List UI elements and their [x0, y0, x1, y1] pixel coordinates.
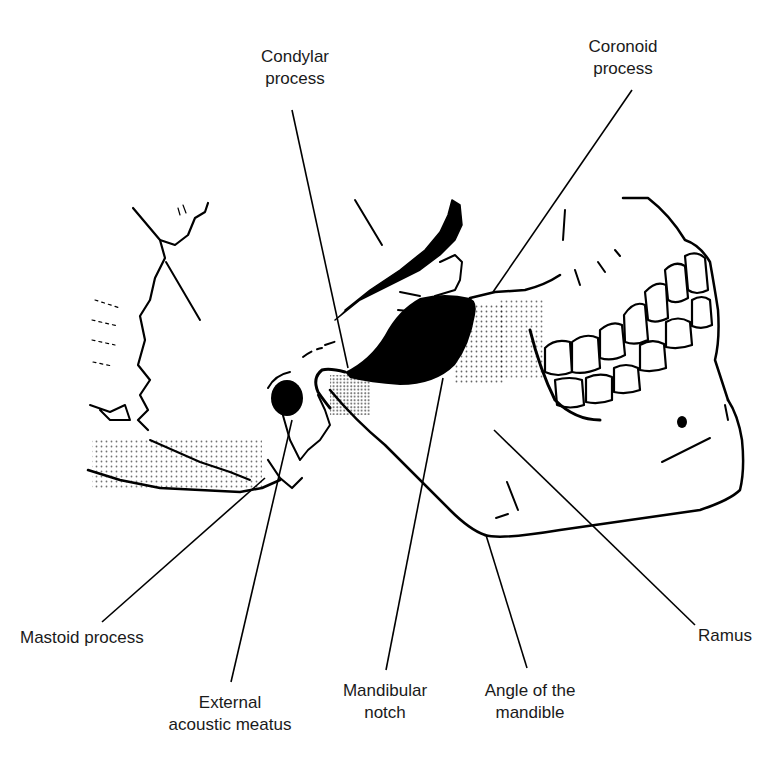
leader-mastoid-process: [102, 478, 265, 622]
label-line: Mandibular: [330, 680, 440, 702]
leader-ramus: [494, 430, 695, 625]
leader-coronoid-process: [493, 90, 632, 292]
label-line: process: [243, 68, 347, 90]
label-line: mandible: [470, 702, 590, 724]
label-line: notch: [330, 702, 440, 724]
leader-mandibular-notch: [386, 378, 443, 670]
label-mandibular-notch: Mandibular notch: [330, 680, 440, 724]
label-line: Mastoid process: [20, 627, 180, 649]
label-line: External: [150, 692, 310, 714]
skull-cranium: [88, 200, 505, 492]
label-line: acoustic meatus: [150, 714, 310, 736]
label-line: Condylar: [243, 46, 347, 68]
leader-condylar-process: [292, 110, 348, 368]
label-line: Coronoid: [573, 36, 673, 58]
label-ramus: Ramus: [690, 625, 760, 647]
label-angle-of-the-mandible: Angle of the mandible: [470, 680, 590, 724]
label-line: process: [573, 58, 673, 80]
label-line: Angle of the: [470, 680, 590, 702]
label-external-acoustic-meatus: External acoustic meatus: [150, 692, 310, 736]
leader-angle-of-the-mandible: [486, 535, 527, 668]
label-line: Ramus: [690, 625, 760, 647]
label-mastoid-process: Mastoid process: [20, 627, 180, 649]
label-coronoid-process: Coronoid process: [573, 36, 673, 80]
label-condylar-process: Condylar process: [243, 46, 347, 90]
